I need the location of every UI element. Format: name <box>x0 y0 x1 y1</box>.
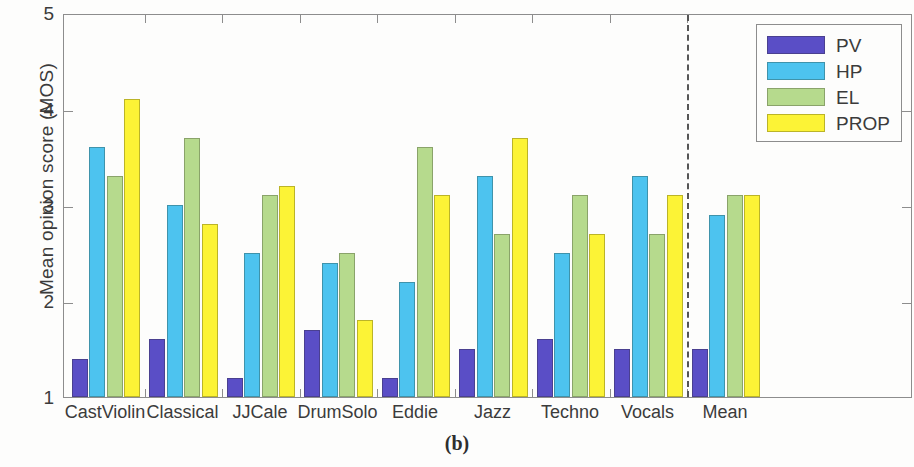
bar-castviolin-pv <box>72 359 88 397</box>
bar-mean-pv <box>692 349 708 397</box>
bar-eddie-el <box>417 147 433 397</box>
bar-vocals-prop <box>667 195 683 397</box>
x-tick-top-2 <box>300 15 301 23</box>
x-label-jazz: Jazz <box>474 402 511 423</box>
bar-techno-prop <box>589 234 605 397</box>
legend-label-prop: PROP <box>836 114 890 133</box>
bar-classical-prop <box>202 224 218 397</box>
y-tick-label-5: 5 <box>20 3 54 25</box>
legend-item-pv: PV <box>757 32 901 58</box>
bar-techno-hp <box>554 253 570 397</box>
bar-techno-pv <box>537 339 553 397</box>
bar-drumsolo-prop <box>357 320 373 397</box>
bar-castviolin-hp <box>89 147 105 397</box>
bar-classical-el <box>184 138 200 397</box>
bar-vocals-pv <box>614 349 630 397</box>
bar-mean-hp <box>709 215 725 397</box>
x-tick-top-5 <box>532 15 533 23</box>
x-label-classical: Classical <box>146 402 218 423</box>
legend: PVHPELPROP <box>756 24 902 142</box>
bar-jjcale-hp <box>244 253 260 397</box>
x-label-vocals: Vocals <box>621 402 674 423</box>
bar-mean-prop <box>744 195 760 397</box>
legend-label-hp: HP <box>836 62 862 81</box>
x-label-techno: Techno <box>541 402 599 423</box>
legend-swatch-hp <box>767 62 825 80</box>
bar-vocals-hp <box>632 176 648 397</box>
x-label-jjcale: JJCale <box>232 402 287 423</box>
x-tick-3 <box>377 389 378 397</box>
x-tick-4 <box>455 389 456 397</box>
y-tick-2 <box>64 303 73 304</box>
bar-jjcale-prop <box>279 186 295 397</box>
figure-panel: Mean opinion score (MOS) 12345 CastVioli… <box>0 0 914 467</box>
x-tick-top-6 <box>610 15 611 23</box>
bar-mean-el <box>727 195 743 397</box>
x-tick-0 <box>145 389 146 397</box>
figure-caption: (b) <box>0 432 914 455</box>
bar-eddie-hp <box>399 282 415 397</box>
bar-jazz-hp <box>477 176 493 397</box>
bar-jjcale-el <box>262 195 278 397</box>
y-tick-label-2: 2 <box>20 291 54 313</box>
bar-eddie-pv <box>382 378 398 397</box>
bar-eddie-prop <box>434 195 450 397</box>
x-label-castviolin: CastViolin <box>65 402 146 423</box>
y-tick-label-4: 4 <box>20 99 54 121</box>
bar-jazz-pv <box>459 349 475 397</box>
legend-label-el: EL <box>836 88 859 107</box>
y-tick-3 <box>64 207 73 208</box>
y-tick-label-3: 3 <box>20 195 54 217</box>
y-tick-label-1: 1 <box>20 387 54 409</box>
x-label-eddie: Eddie <box>392 402 438 423</box>
legend-item-prop: PROP <box>757 110 901 136</box>
bar-jazz-prop <box>512 138 528 397</box>
x-tick-5 <box>532 389 533 397</box>
bar-castviolin-prop <box>124 99 140 397</box>
legend-item-hp: HP <box>757 58 901 84</box>
mean-divider-line <box>687 15 689 397</box>
x-tick-6 <box>610 389 611 397</box>
x-tick-top-3 <box>377 15 378 23</box>
bar-drumsolo-pv <box>304 330 320 397</box>
x-tick-top-4 <box>455 15 456 23</box>
bar-drumsolo-el <box>339 253 355 397</box>
legend-swatch-pv <box>767 36 825 54</box>
legend-swatch-el <box>767 88 825 106</box>
x-tick-top-0 <box>145 15 146 23</box>
x-label-drumsolo: DrumSolo <box>297 402 377 423</box>
x-tick-top-1 <box>222 15 223 23</box>
bar-jazz-el <box>494 234 510 397</box>
bar-castviolin-el <box>107 176 123 397</box>
bar-drumsolo-hp <box>322 263 338 397</box>
x-tick-1 <box>222 389 223 397</box>
y-tick-right-4 <box>902 111 911 112</box>
bar-classical-pv <box>149 339 165 397</box>
bar-jjcale-pv <box>227 378 243 397</box>
legend-swatch-prop <box>767 114 825 132</box>
y-tick-4 <box>64 111 73 112</box>
y-tick-right-3 <box>902 207 911 208</box>
y-tick-right-2 <box>902 303 911 304</box>
legend-label-pv: PV <box>836 36 861 55</box>
bar-techno-el <box>572 195 588 397</box>
bar-classical-hp <box>167 205 183 397</box>
x-tick-2 <box>300 389 301 397</box>
legend-item-el: EL <box>757 84 901 110</box>
x-label-mean: Mean <box>702 402 747 423</box>
bar-vocals-el <box>649 234 665 397</box>
